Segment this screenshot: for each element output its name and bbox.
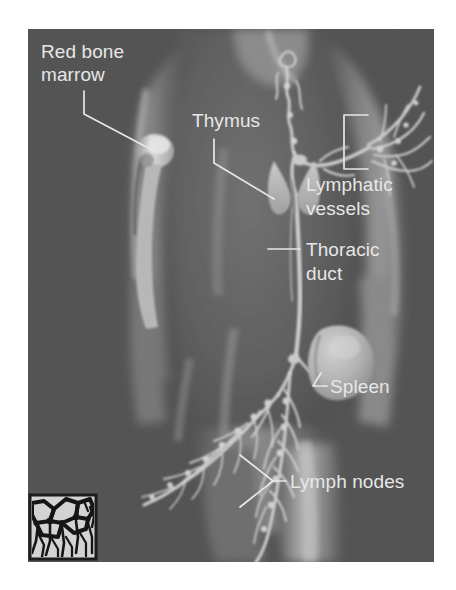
grain-overlay [28, 29, 434, 562]
illustration-svg: Red bone marrow Thymus Lymphatic vessels [28, 29, 434, 562]
lymphatic-system-illustration: Red bone marrow Thymus Lymphatic vessels [28, 29, 434, 562]
figure-root: Red bone marrow Thymus Lymphatic vessels [0, 0, 456, 590]
plate-content: Red bone marrow Thymus Lymphatic vessels [28, 29, 434, 562]
